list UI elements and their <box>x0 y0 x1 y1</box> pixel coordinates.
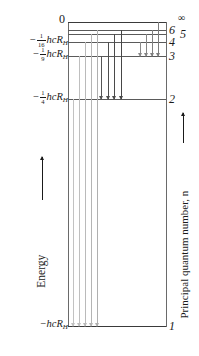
energy-label-zero: 0 0 <box>59 13 65 25</box>
energy-axis-label: Energy <box>0 234 90 248</box>
quantum-number-2: 2 <box>169 93 175 105</box>
fraction-one-quarter: 14 <box>40 90 45 106</box>
plot-left-edge <box>68 22 69 327</box>
level-line-n-infinity <box>68 22 166 23</box>
quantum-number-infinity: ∞ <box>178 13 185 23</box>
energy-label-n1: −hcRH <box>41 319 68 331</box>
energy-label-n2: −14hcRH <box>33 90 68 106</box>
energy-axis-label-text: Energy <box>36 192 48 288</box>
energy-label-n3: −19hcRH <box>33 47 68 63</box>
subscript-h: H <box>63 323 68 331</box>
quantum-number-4: 4 <box>169 36 175 48</box>
subscript-h: H <box>63 39 68 47</box>
quantum-number-1: 1 <box>169 320 175 332</box>
quantum-number-5: 5 <box>180 28 186 40</box>
hydrogen-energy-level-diagram: 0 0 −116hcRH −19hcRH −14hcRH −hcRH ∞ 6 5… <box>0 0 199 356</box>
quantum-number-axis-label-text: Principal quantum number, n <box>179 159 190 319</box>
fraction-one-ninth: 19 <box>40 47 45 63</box>
plot-right-edge <box>166 22 167 327</box>
subscript-h: H <box>63 53 68 61</box>
quantum-number-axis-label: Principal quantum number, n <box>104 233 199 247</box>
subscript-h: H <box>63 96 68 104</box>
level-line-n2 <box>68 99 166 100</box>
quantum-number-3: 3 <box>169 50 175 62</box>
